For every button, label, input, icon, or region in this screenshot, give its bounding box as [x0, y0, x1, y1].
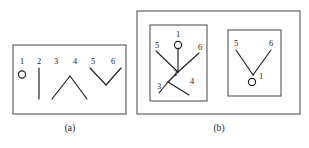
subpanel-b-right-segment-5: [236, 50, 253, 75]
panel-a-label-1: 1: [20, 57, 24, 66]
subpanel-b-right-label-6: 6: [269, 39, 273, 48]
subpanel-b-left-segment-6: [178, 53, 199, 72]
panel-a-label-3: 3: [54, 57, 58, 66]
subpanel-b-left-node-1-circle: [174, 41, 181, 48]
subpanel-b-left-label-1: 1: [176, 30, 180, 39]
panel-a-segment-5: [90, 68, 106, 85]
subpanel-b-left-label-2: 2: [173, 69, 177, 78]
panel-a-box: [13, 45, 126, 114]
panel-a-label-6: 6: [111, 57, 115, 66]
subpanel-b-left-label-5: 5: [155, 41, 159, 50]
panel-a-label-5: 5: [91, 57, 95, 66]
panel-a: 1 2 3 4 5 6 (a): [13, 45, 126, 134]
subpanel-b-left-label-6: 6: [198, 43, 202, 52]
panel-b-box: [137, 11, 300, 114]
subpanel-b-right-node-1-circle: [248, 78, 255, 85]
subpanel-b-left-label-3: 3: [157, 82, 161, 91]
subpanel-b-left: 1 5 6 2 3 4: [150, 25, 207, 101]
subpanel-b-right: 5 6 1: [228, 30, 281, 96]
panel-a-label-4: 4: [73, 57, 78, 66]
subpanel-b-left-segment-4: [168, 82, 189, 95]
panel-b-caption: (b): [213, 122, 224, 134]
panel-b: 1 5 6 2 3 4 5 6 1 (b): [137, 11, 300, 134]
subpanel-b-left-label-4: 4: [190, 77, 195, 86]
figure-canvas: 1 2 3 4 5 6 (a) 1 5 6: [0, 0, 309, 148]
figure-root: 1 2 3 4 5 6 (a) 1 5 6: [0, 0, 309, 148]
panel-a-label-2: 2: [37, 57, 41, 66]
panel-a-caption: (a): [65, 122, 76, 134]
panel-a-segment-4: [70, 76, 87, 99]
subpanel-b-right-label-5: 5: [234, 39, 238, 48]
panel-a-segment-3: [52, 76, 70, 99]
subpanel-b-right-label-1: 1: [259, 72, 263, 81]
panel-a-node-1-circle: [18, 71, 25, 78]
panel-a-segment-6: [106, 68, 121, 85]
